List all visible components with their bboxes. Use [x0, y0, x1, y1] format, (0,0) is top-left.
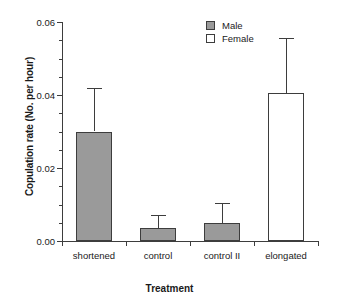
y-tick-minor: [59, 59, 62, 60]
error-bar-cap: [215, 203, 230, 204]
y-tick-minor: [59, 132, 62, 133]
y-tick-minor: [59, 40, 62, 41]
y-tick-minor: [59, 113, 62, 114]
y-tick-major: [57, 22, 62, 23]
bar-elongated: [268, 93, 304, 241]
bar-control-ii: [204, 223, 240, 241]
y-axis-title: Copulation rate (No. per hour): [24, 17, 35, 237]
x-tick-label: shortened: [73, 250, 115, 261]
y-tick-label: 0.06: [37, 17, 56, 28]
y-tick-minor: [59, 205, 62, 206]
legend-swatch-female: [206, 34, 215, 43]
x-tick-label: control: [144, 250, 173, 261]
x-tick-label: control II: [204, 250, 240, 261]
y-axis-line: [62, 22, 63, 241]
y-tick-minor: [59, 77, 62, 78]
x-axis-title: Treatment: [0, 283, 339, 294]
y-tick-minor: [59, 223, 62, 224]
error-bar-stem: [286, 38, 287, 93]
chart-figure: Copulation rate (No. per hour) Treatment…: [0, 0, 339, 306]
error-bar-cap: [151, 215, 166, 216]
chart-legend: MaleFemale: [206, 19, 254, 45]
error-bar-cap: [87, 88, 102, 89]
x-tick: [318, 241, 319, 246]
plot-area: 0.000.020.040.06 shortenedcontrolcontrol…: [62, 22, 318, 241]
legend-label: Female: [222, 34, 254, 44]
error-bar-stem: [158, 215, 159, 228]
y-tick-label: 0.04: [37, 90, 56, 101]
y-tick-minor: [59, 186, 62, 187]
error-bar-stem: [94, 88, 95, 132]
legend-label: Male: [222, 21, 243, 31]
y-tick-minor: [59, 150, 62, 151]
bar-shortened: [76, 132, 112, 242]
y-tick-major: [57, 95, 62, 96]
error-bar-cap: [279, 38, 294, 39]
y-tick-label: 0.00: [37, 236, 56, 247]
x-tick: [126, 241, 127, 246]
error-bar-stem: [222, 203, 223, 223]
x-tick: [254, 241, 255, 246]
bar-control: [140, 228, 176, 241]
legend-item-male: Male: [206, 19, 254, 32]
x-tick: [62, 241, 63, 246]
x-tick: [190, 241, 191, 246]
legend-item-female: Female: [206, 32, 254, 45]
y-tick-major: [57, 168, 62, 169]
legend-swatch-male: [206, 21, 215, 30]
x-tick-label: elongated: [265, 250, 307, 261]
y-tick-label: 0.02: [37, 163, 56, 174]
